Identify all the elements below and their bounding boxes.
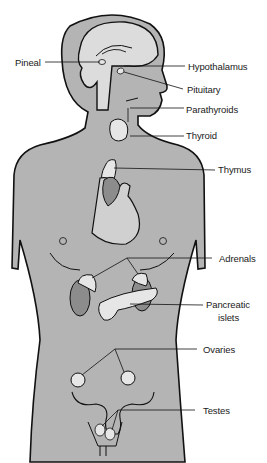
label-thymus: Thymus (218, 164, 251, 175)
label-hypothalamus: Hypothalamus (188, 61, 248, 72)
label-pituitary: Pituitary (187, 84, 220, 95)
label-parathyroids: Parathyroids (186, 104, 238, 115)
left-ovary (71, 373, 85, 387)
right-testis (105, 428, 115, 440)
label-thyroid: Thyroid (186, 130, 217, 141)
thyroid-gland (110, 119, 128, 141)
label-pancreatic-islets-1: Pancreatic (206, 299, 250, 310)
label-testes: Testes (203, 405, 230, 416)
right-ovary (121, 371, 135, 385)
label-ovaries: Ovaries (203, 344, 235, 355)
label-pancreatic-islets-2: islets (218, 312, 239, 323)
left-testis (95, 424, 105, 436)
label-pineal: Pineal (15, 57, 41, 68)
pituitary-gland (117, 68, 124, 74)
label-adrenals: Adrenals (219, 253, 256, 264)
